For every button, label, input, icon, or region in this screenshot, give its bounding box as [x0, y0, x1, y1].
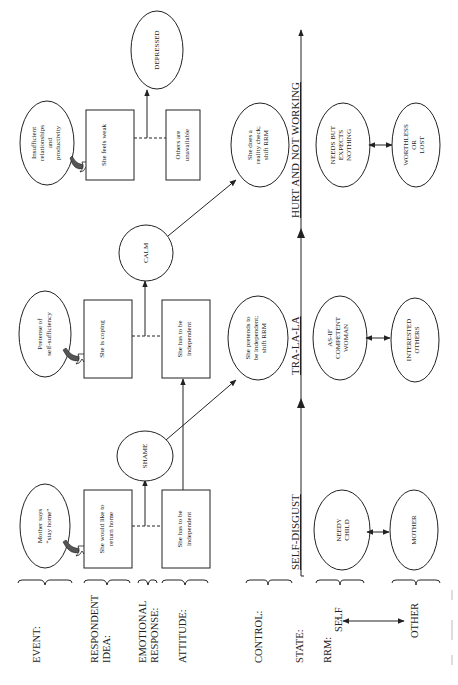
event-text-3b: relationships [38, 125, 46, 161]
label-respondent-idea-2: IDEA: [101, 635, 112, 663]
brace-emotion [138, 580, 157, 585]
label-state: STATE: [294, 629, 305, 663]
emotion-text-1: SHAME [141, 444, 149, 469]
label-attitude: ATTITUDE: [177, 609, 188, 663]
state-self-disgust: SELF-DISGUST [289, 494, 301, 570]
attitude-text-1a: She has to be [176, 510, 184, 547]
attitude-text-3b: unavailable [183, 129, 191, 161]
attitude-text-2a: She has to be [176, 320, 184, 357]
attitude-text-2b: independent [185, 322, 193, 356]
label-respondent-idea: RESPONDENT [89, 594, 100, 663]
rrm-other-text-2b: OTHERS [413, 326, 421, 353]
rrm-self-text-3b: EXPECTS [337, 130, 345, 160]
rrm-self-text-3c: NOTHING [345, 129, 353, 161]
label-other: OTHER [409, 603, 420, 638]
attitude-text-1b: independent [185, 512, 193, 546]
idea-box-2 [84, 300, 132, 378]
label-emotional-response-2: RESPONSE: [149, 607, 160, 663]
column-2: Pretense of self-sufficiency She is copi… [19, 180, 439, 382]
control-text-2a: She pretends to [244, 316, 252, 360]
rrm-flow-diagram: EVENT: RESPONDENT IDEA: EMOTIONAL RESPON… [0, 0, 458, 685]
event-text-2a: Pretense of [36, 318, 44, 350]
rrm-other-text-3b: OR [410, 140, 418, 150]
rrm-other-text-2a: INTERESTED [405, 319, 413, 361]
brace-idea [84, 580, 130, 585]
attitude-text-3a: Others are [174, 131, 182, 160]
event-text-1b: “stay home” [45, 509, 53, 544]
shame-to-control2-arrow [166, 380, 236, 440]
rrm-self-text-2a: AS-IF [326, 329, 334, 347]
rrm-self-text-2c: WOMAN [342, 324, 350, 352]
state-hurt-and-not-working: HURT AND NOT WORKING [289, 82, 301, 218]
row-braces [18, 580, 440, 585]
idea-text-2: She is coping [98, 320, 106, 358]
event-text-3a: Insufficient [30, 127, 38, 159]
rrm-other-text-1: MOTHER [410, 515, 418, 545]
idea-text-1a: She would like to [98, 504, 106, 554]
label-control: CONTROL: [253, 610, 264, 663]
brace-rrm-other [392, 580, 440, 585]
label-event: EVENT: [31, 626, 42, 663]
emotion-text-2: CALM [142, 242, 150, 263]
rrm-other-text-3c: LOST [418, 136, 426, 154]
label-rrm: RRM: [322, 637, 333, 663]
idea-text-1b: return home [107, 512, 115, 546]
brace-rrm-self [316, 580, 364, 585]
row-labels: EVENT: RESPONDENT IDEA: EMOTIONAL RESPON… [31, 594, 420, 663]
event-text-1a: Mother says [36, 509, 44, 544]
control-text-3c: shift RRM [262, 129, 270, 160]
curl-arrow-icon [63, 540, 86, 556]
control-text-2c: shift RRM [260, 322, 268, 353]
emotion-text-3: DEPRESSED [153, 30, 161, 69]
brace-event [18, 580, 72, 585]
control-text-3a: She does a [246, 129, 254, 160]
curl-arrow-icon [63, 348, 86, 364]
event-text-2b: self-sufficiency [45, 312, 53, 356]
event-text-3c: and [46, 137, 54, 148]
event-text-3d: productivity [54, 125, 62, 160]
brace-control [246, 580, 292, 585]
control-text-3b: reality check; [254, 126, 262, 164]
idea-box-3 [86, 110, 134, 180]
rrm-self-text-2b: COMPETENT [334, 316, 342, 359]
state-axis: SELF-DISGUST TRA-LA-LA HURT AND NOT WORK… [289, 30, 305, 576]
control-text-2b: be independent; [252, 316, 260, 361]
brace-attitude [162, 580, 208, 585]
calm-to-control3-arrow [168, 180, 236, 236]
state-tra-la-la: TRA-LA-LA [289, 316, 301, 375]
column-3: Insufficient relationships and productiv… [20, 11, 440, 187]
column-1: Mother says “stay home” She would like t… [20, 379, 438, 570]
rrm-self-text-1a: NEEDY [335, 518, 343, 542]
rrm-self-text-3a: NEEDS BUT [329, 125, 337, 164]
rrm-other-text-3a: WORTHLESS [402, 124, 410, 166]
rrm-self-text-1b: CHILD [343, 519, 351, 540]
label-emotional-response: EMOTIONAL [137, 601, 148, 663]
idea-text-3: She feels weak [100, 124, 108, 166]
